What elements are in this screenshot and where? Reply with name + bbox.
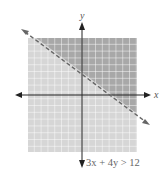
inequality-label: 3x + 4y > 12 <box>86 157 140 168</box>
x-axis-left-arrow-icon <box>15 92 22 98</box>
boundary-line-down-arrow-icon <box>142 119 150 125</box>
inequality-graph: y x 3x + 4y > 12 <box>0 0 168 175</box>
x-axis-label: x <box>153 89 159 100</box>
y-axis-label: y <box>79 10 85 21</box>
y-axis-up-arrow-icon <box>79 22 85 30</box>
y-axis-down-arrow-icon <box>79 160 85 168</box>
x-axis-right-arrow-icon <box>144 92 151 98</box>
